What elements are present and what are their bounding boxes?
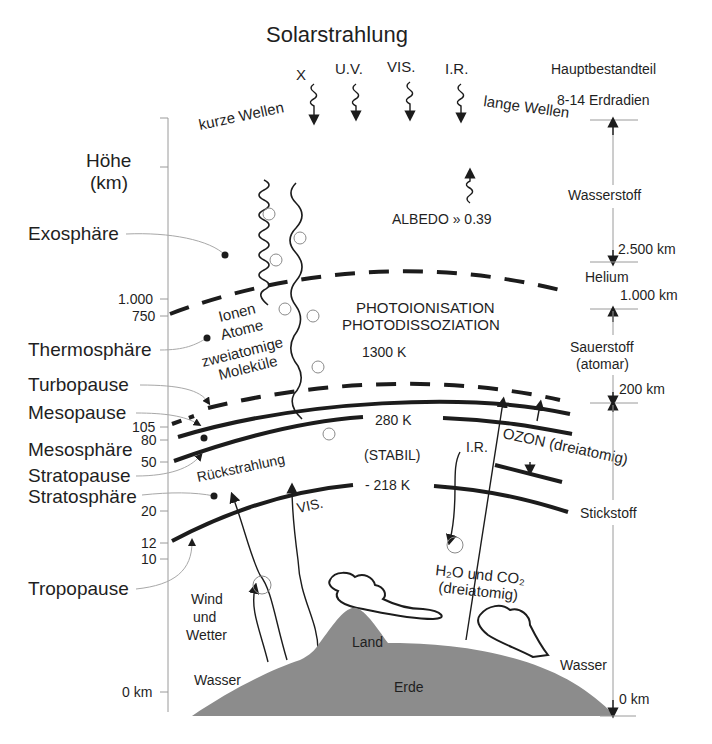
backradiation-label: Rückstrahlung: [195, 451, 286, 485]
middle-atmosphere: 280 K (STABIL) - 218 K Rückstrahlung VIS…: [195, 402, 629, 640]
band-x: X: [296, 66, 306, 83]
and-label: und: [193, 609, 216, 625]
thermosphere-content: Ionen Atome zweiatomige Moleküle PHOTOIO…: [200, 299, 500, 383]
wind-label: Wind: [191, 591, 223, 607]
earth-label: Erde: [394, 679, 424, 695]
radiation-bands: X U.V. VIS. I.R. kurze Wellen lange Well…: [197, 58, 570, 227]
hydrogen-label: Wasserstoff: [568, 187, 641, 203]
km-2500-label: 2.500 km: [618, 241, 676, 257]
wave-arrow-ir: [457, 84, 463, 118]
tick-50: 50: [141, 454, 157, 470]
albedo-label: ALBEDO » 0.39: [392, 211, 492, 227]
composition-scale: Hauptbestandteil 8-14 Erdradien Wasserst…: [551, 61, 678, 716]
helium-label: Helium: [585, 269, 629, 285]
diagram-title: Solarstrahlung: [266, 22, 408, 47]
albedo-wave-arrow: [466, 173, 472, 203]
label-exosphere: Exosphäre: [28, 223, 119, 244]
tick-750: 750: [132, 308, 156, 324]
weather-label: Wetter: [186, 627, 227, 643]
water-left-label: Wasser: [194, 672, 241, 688]
axis-title-line2: (km): [90, 172, 128, 193]
ozone-line: [495, 465, 562, 482]
water-right-label: Wasser: [560, 657, 607, 673]
wave-arrow-vis: [406, 82, 412, 116]
layer-labels: Exosphäre Thermosphäre Turbopause Mesopa…: [28, 223, 229, 599]
earth-radii-label: 8-14 Erdradien: [557, 92, 650, 108]
stable-label: (STABIL): [364, 447, 421, 463]
photodissociation-label: PHOTODISSOZIATION: [342, 316, 500, 333]
band-uv: U.V.: [335, 60, 363, 77]
atomic-label: (atomar): [576, 356, 629, 372]
label-mesopause: Mesopause: [28, 402, 126, 423]
label-mesosphere: Mesosphäre: [28, 439, 133, 460]
label-tropopause: Tropopause: [28, 578, 129, 599]
km-0-label-right: 0 km: [619, 691, 649, 707]
temp-1300k: 1300 K: [362, 344, 407, 360]
land-label: Land: [352, 634, 383, 650]
oxygen-label: Sauerstoff: [570, 339, 634, 355]
earth-shape: [192, 608, 615, 716]
tick-12: 12: [141, 535, 157, 551]
vis-label: VIS.: [295, 495, 324, 516]
tick-80: 80: [141, 432, 157, 448]
label-thermosphere: Thermosphäre: [28, 339, 152, 360]
band-vis: VIS.: [387, 58, 415, 75]
ir-label: I.R.: [466, 439, 488, 455]
earth: Wasser Land Erde Wasser: [192, 608, 615, 716]
wave-arrow-x: [310, 84, 316, 120]
km-1000-label: 1.000 km: [620, 287, 678, 303]
temp-280k: 280 K: [375, 412, 412, 428]
band-ir: I.R.: [445, 60, 468, 77]
wave-arrow-uv: [352, 84, 358, 116]
main-component-header: Hauptbestandteil: [551, 61, 656, 77]
short-waves-label: kurze Wellen: [197, 98, 285, 133]
axis-title-line1: Höhe: [86, 150, 131, 171]
tick-10: 10: [141, 551, 157, 567]
tick-20: 20: [141, 503, 157, 519]
incoming-rays: [259, 180, 335, 440]
label-stratosphere: Stratosphäre: [28, 486, 137, 507]
label-turbopause: Turbopause: [28, 374, 129, 395]
tick-0km: 0 km: [122, 684, 152, 700]
cloud-right: [478, 606, 548, 657]
label-stratopause: Stratopause: [28, 465, 130, 486]
atmosphere-diagram: Solarstrahlung X U.V. VIS. I.R. kurze We…: [0, 0, 712, 744]
photoionisation-label: PHOTOIONISATION: [356, 299, 495, 316]
tick-1000: 1.000: [118, 291, 153, 307]
nitrogen-label: Stickstoff: [580, 505, 637, 521]
km-200-label: 200 km: [619, 381, 665, 397]
temp-218k: - 218 K: [365, 477, 411, 493]
